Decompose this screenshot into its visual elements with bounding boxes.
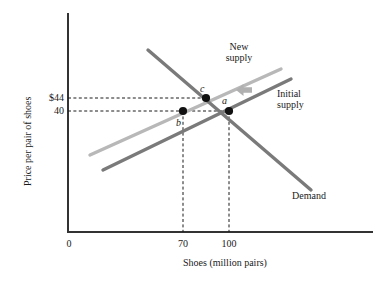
x-tick-label-100: 100 xyxy=(216,238,242,249)
point-label-b: b xyxy=(176,117,181,128)
point-label-c: c xyxy=(200,83,204,94)
data-point-a xyxy=(225,107,233,115)
y-axis-title: Price per pair of shoes xyxy=(22,97,33,186)
x-tick-label-70: 70 xyxy=(173,238,193,249)
demand-label: Demand xyxy=(292,190,356,201)
demand-curve xyxy=(148,50,311,190)
new-supply-label: New supply xyxy=(206,41,272,63)
point-label-a: a xyxy=(222,95,227,106)
x-axis-title: Shoes (million pairs) xyxy=(165,257,285,268)
guide-lines-group xyxy=(68,98,229,232)
data-point-c xyxy=(202,94,210,102)
x-tick-label-0: 0 xyxy=(62,238,76,249)
supply-demand-figure: $44 40 0 70 100 Shoes (million pairs) Pr… xyxy=(0,0,384,285)
initial-supply-label: Initial supply xyxy=(277,88,337,110)
data-point-b xyxy=(179,107,187,115)
